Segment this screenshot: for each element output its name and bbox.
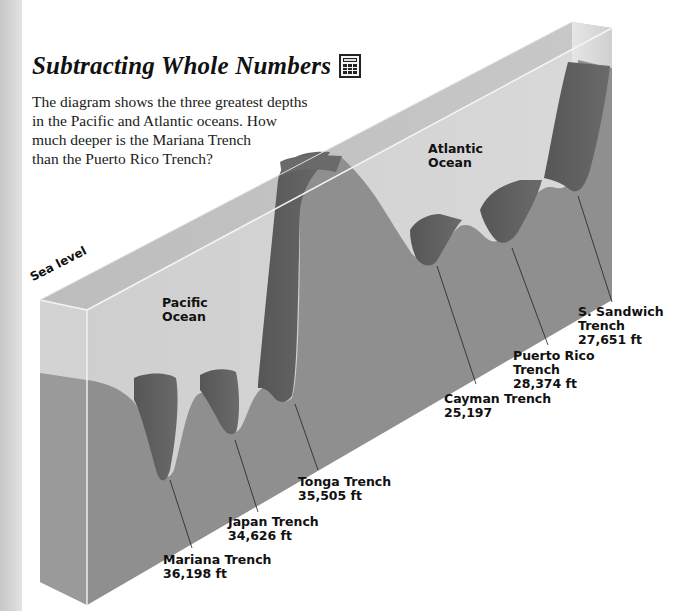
page-title: Subtracting Whole Numbers	[32, 52, 361, 80]
trench-depth: 25,197	[444, 406, 551, 420]
trench-name: Puerto Rico	[513, 349, 595, 363]
trench-depth: 35,505 ft	[298, 489, 391, 503]
japan-trench-label: Japan Trench 34,626 ft	[228, 515, 319, 543]
ocean-name: Pacific	[162, 296, 208, 310]
trench-name: Cayman Trench	[444, 392, 551, 406]
sandwich-trench-label: S. Sandwich Trench 27,651 ft	[578, 305, 664, 347]
pacific-ocean-label: Pacific Ocean	[162, 296, 208, 324]
left-end-seafloor	[40, 373, 87, 605]
trench-name: Mariana Trench	[163, 553, 271, 567]
atlantic-ocean-label: Atlantic Ocean	[428, 142, 483, 170]
problem-line: in the Pacific and Atlantic oceans. How	[32, 111, 342, 130]
trench-depth: 27,651 ft	[578, 333, 664, 347]
trench-name: Trench	[513, 363, 595, 377]
mariana-trench-label: Mariana Trench 36,198 ft	[163, 553, 271, 581]
tonga-trench-label: Tonga Trench 35,505 ft	[298, 475, 391, 503]
trench-depth: 36,198 ft	[163, 567, 271, 581]
ocean-name: Atlantic	[428, 142, 483, 156]
problem-line: The diagram shows the three greatest dep…	[32, 92, 342, 111]
calculator-icon	[339, 54, 361, 78]
problem-text: The diagram shows the three greatest dep…	[32, 92, 342, 168]
trench-depth: 28,374 ft	[513, 377, 595, 391]
trench-name: Trench	[578, 319, 664, 333]
trench-depth: 34,626 ft	[228, 529, 319, 543]
title-text: Subtracting Whole Numbers	[32, 52, 331, 80]
puerto-rico-trench-label: Puerto Rico Trench 28,374 ft	[513, 349, 595, 391]
ocean-name: Ocean	[162, 310, 208, 324]
trench-name: Japan Trench	[228, 515, 319, 529]
trench-name: S. Sandwich	[578, 305, 664, 319]
problem-line: than the Puerto Rico Trench?	[32, 149, 342, 168]
ocean-name: Ocean	[428, 156, 483, 170]
trench-name: Tonga Trench	[298, 475, 391, 489]
problem-line: much deeper is the Mariana Trench	[32, 130, 342, 149]
cayman-trench-label: Cayman Trench 25,197	[444, 392, 551, 420]
